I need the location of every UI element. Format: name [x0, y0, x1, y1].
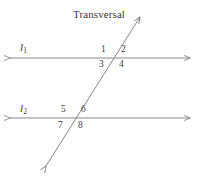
angle-label-7: 7	[58, 121, 63, 131]
line-label-l1-subscript: 1	[23, 46, 27, 55]
parallel-lines-transversal-diagram: Transversal l1 l2 1 2 3 4 5 6 7 8	[0, 0, 199, 181]
angle-label-8: 8	[78, 121, 83, 131]
angle-label-4: 4	[119, 60, 124, 70]
angle-label-5: 5	[61, 105, 66, 115]
diagram-canvas	[0, 0, 199, 181]
line-label-l2-subscript: 2	[23, 107, 27, 116]
line-label-l1: l1	[20, 42, 27, 55]
angle-label-2: 2	[121, 45, 126, 55]
angle-label-1: 1	[101, 45, 106, 55]
line-label-l2: l2	[20, 103, 27, 116]
transversal-line	[46, 17, 140, 166]
transversal-label: Transversal	[73, 9, 125, 20]
angle-label-3: 3	[99, 60, 104, 70]
angle-label-6: 6	[81, 105, 86, 115]
